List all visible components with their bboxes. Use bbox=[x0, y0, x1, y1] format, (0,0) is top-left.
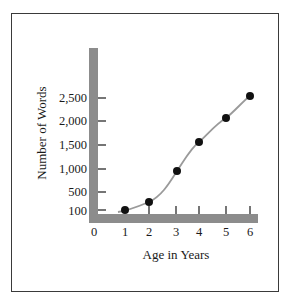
data-point bbox=[173, 167, 181, 175]
data-point bbox=[246, 92, 254, 100]
data-point bbox=[222, 114, 230, 122]
y-ticks bbox=[98, 98, 106, 210]
y-axis-title: Number of Words bbox=[34, 86, 49, 179]
x-axis-title: Age in Years bbox=[143, 247, 210, 262]
y-tick-label: 1,000 bbox=[59, 162, 87, 176]
x-tick-label: 0 bbox=[91, 225, 97, 239]
chart-canvas: 2,500 2,000 1,500 1,000 500 100 0 1 2 3 … bbox=[0, 0, 289, 304]
y-tick-label: 500 bbox=[68, 185, 87, 199]
data-point bbox=[121, 206, 129, 214]
x-tick-label: 6 bbox=[247, 225, 253, 239]
y-tick-label: 2,500 bbox=[59, 91, 87, 105]
x-ticks bbox=[149, 206, 250, 214]
x-tick-label: 5 bbox=[223, 225, 229, 239]
x-tick-label: 4 bbox=[196, 225, 203, 239]
x-axis-bar bbox=[89, 214, 258, 223]
y-axis-bar bbox=[89, 48, 98, 223]
y-tick-label: 1,500 bbox=[59, 138, 87, 152]
y-tick-label: 100 bbox=[68, 204, 87, 218]
data-point bbox=[145, 198, 153, 206]
x-tick-label: 2 bbox=[146, 225, 152, 239]
data-point bbox=[195, 138, 203, 146]
data-curve bbox=[118, 96, 250, 212]
y-tick-label: 2,000 bbox=[59, 114, 87, 128]
x-tick-label: 1 bbox=[122, 225, 128, 239]
x-tick-label: 3 bbox=[173, 225, 179, 239]
